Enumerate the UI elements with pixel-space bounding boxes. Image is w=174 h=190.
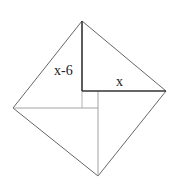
geometry-diagram: x-6 x [0,0,174,190]
vertical-leg-label: x-6 [54,63,73,78]
outer-square [13,21,166,176]
horizontal-leg-label: x [116,74,123,89]
